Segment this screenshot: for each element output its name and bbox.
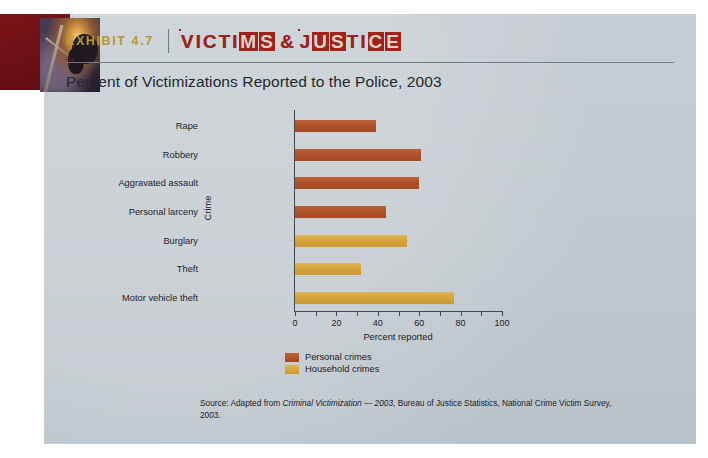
x-tick-label-40: 40 [373, 318, 383, 328]
category-label-aggravated-assault: Aggravated assault [118, 179, 198, 188]
bar-burglary [295, 235, 407, 247]
bar-theft [295, 263, 361, 275]
x-tick-50 [399, 312, 400, 316]
category-label-theft: Theft [177, 265, 198, 274]
x-tick-30 [357, 312, 358, 316]
x-tick-0 [295, 312, 296, 316]
x-tick-60 [419, 312, 420, 316]
bar-motor-vehicle-theft [295, 292, 454, 304]
x-tick-label-20: 20 [331, 318, 341, 328]
photo-detail-pole [44, 25, 64, 92]
bar-robbery [295, 149, 421, 161]
x-tick-label-100: 100 [494, 318, 509, 328]
x-tick-20 [336, 312, 337, 316]
x-tick-70 [440, 312, 441, 316]
feature-banner-title: VICTIMS & JUSTICE FILE [181, 32, 401, 51]
source-prefix: Source: Adapted from [200, 398, 283, 408]
category-label-personal-larceny: Personal larceny [129, 208, 198, 217]
legend-item-household-crimes: Household crimes [285, 364, 379, 374]
legend-swatch-personal-crimes [285, 353, 299, 362]
x-tick-40 [378, 312, 379, 316]
legend-swatch-household-crimes [285, 365, 299, 374]
bar-rape [295, 120, 376, 132]
exhibit-page: EXHIBIT 4.7 VICTIMS & JUSTICE FILE Perce… [0, 0, 708, 458]
y-axis-title: Crime [203, 196, 213, 221]
x-tick-80 [461, 312, 462, 316]
exhibit-header: EXHIBIT 4.7 VICTIMS & JUSTICE FILE [66, 26, 401, 56]
header-divider [168, 29, 169, 53]
x-axis-title: Percent reported [363, 332, 432, 342]
exhibit-number-label: EXHIBIT 4.7 [66, 34, 154, 48]
x-tick-90 [481, 312, 482, 316]
legend-label-personal-crimes: Personal crimes [305, 352, 372, 362]
x-tick-label-60: 60 [414, 318, 424, 328]
x-tick-10 [316, 312, 317, 316]
chart-title: Percent of Victimizations Reported to th… [66, 73, 442, 91]
category-label-motor-vehicle-theft: Motor vehicle theft [122, 294, 198, 303]
source-title: Criminal Victimization — 2003 [283, 398, 394, 408]
bar-chart: Crime Percent reported RapeRobberyAggrav… [150, 108, 550, 338]
x-tick-label-80: 80 [456, 318, 466, 328]
category-label-rape: Rape [176, 122, 198, 131]
legend-label-household-crimes: Household crimes [305, 364, 379, 374]
header-rule [66, 62, 674, 63]
x-tick-100 [502, 312, 503, 316]
bar-personal-larceny [295, 206, 386, 218]
bar-aggravated-assault [295, 177, 419, 189]
legend-item-personal-crimes: Personal crimes [285, 352, 379, 362]
source-note: Source: Adapted from Criminal Victimizat… [200, 397, 620, 421]
category-label-burglary: Burglary [163, 237, 198, 246]
category-label-robbery: Robbery [163, 151, 198, 160]
chart-legend: Personal crimes Household crimes [285, 352, 379, 376]
x-tick-label-0: 0 [292, 318, 297, 328]
